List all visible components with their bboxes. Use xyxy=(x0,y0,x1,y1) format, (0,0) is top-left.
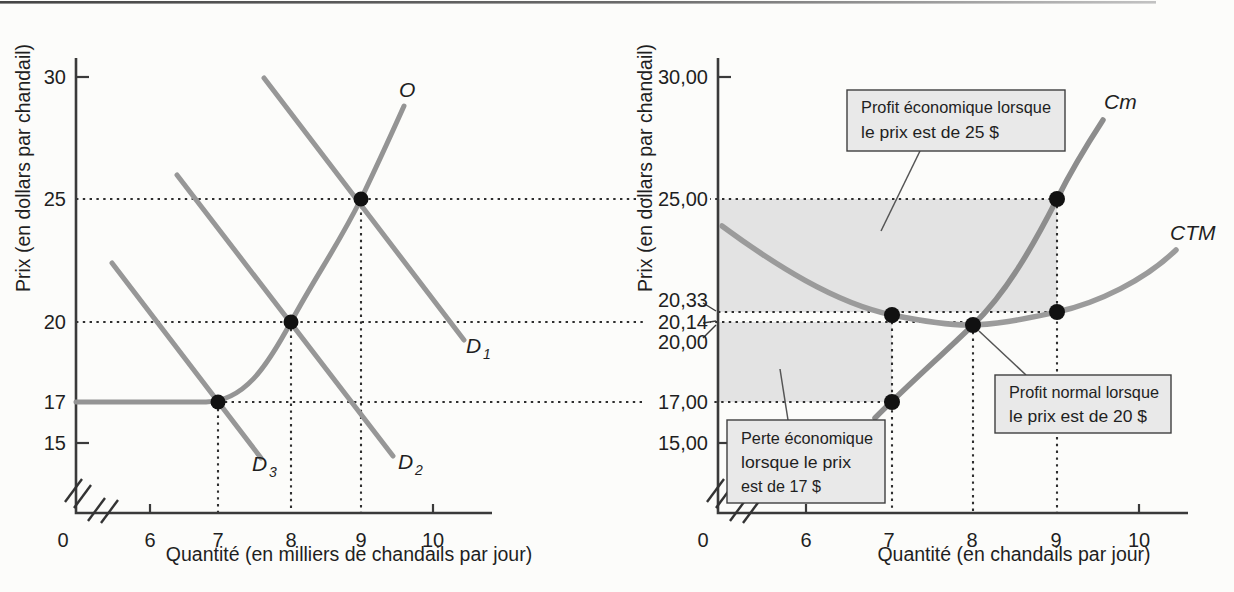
top-rule xyxy=(0,1,1156,4)
right-ytick-2014: 20,14 xyxy=(658,311,708,333)
left-ytick-17: 17 xyxy=(44,391,66,413)
loss-box-line3: est de 17 $ xyxy=(741,477,821,495)
profit-box-line2: le prix est de 25 $ xyxy=(861,123,999,141)
normal-box-connector xyxy=(979,331,1026,375)
right-ytick-1700: 17,00 xyxy=(658,391,708,413)
left-y-axis-title: Prix (en dollars par chandail) xyxy=(12,44,34,292)
d1-label: D xyxy=(466,334,481,357)
left-ytick-25: 25 xyxy=(44,188,66,210)
left-xtick-6: 6 xyxy=(144,529,155,551)
supply-curve-label: O xyxy=(399,78,415,101)
point-left-9-25 xyxy=(354,192,369,207)
left-axes xyxy=(76,58,492,513)
right-xtick-9: 9 xyxy=(1050,529,1061,551)
ctm-curve-label: CTM xyxy=(1170,221,1216,244)
point-ctm-9-2033 xyxy=(1049,304,1065,320)
right-xtick-0: 0 xyxy=(697,529,708,551)
left-ytick-15: 15 xyxy=(44,432,66,454)
d2-label-sub: 2 xyxy=(414,462,423,478)
profit-box-line1: Profit économique lorsque xyxy=(861,98,1051,116)
demand-curve-D1 xyxy=(264,78,464,340)
left-xtick-9: 9 xyxy=(355,529,366,551)
cm-curve-label: Cm xyxy=(1104,90,1137,113)
left-ytick-30: 30 xyxy=(44,66,66,88)
d3-label: D xyxy=(252,452,267,475)
d1-label-sub: 1 xyxy=(483,346,491,362)
left-xtick-10: 10 xyxy=(422,529,444,551)
d3-label-sub: 3 xyxy=(269,464,277,480)
right-xtick-6: 6 xyxy=(800,529,811,551)
left-xtick-0: 0 xyxy=(57,529,68,551)
right-ytick-1500: 15,00 xyxy=(658,432,708,454)
left-ytick-20: 20 xyxy=(44,311,66,333)
right-ytick-3000: 30,00 xyxy=(658,66,708,88)
left-xtick-8: 8 xyxy=(285,529,296,551)
textbook-figure: Profit économique lorsque le prix est de… xyxy=(0,0,1234,592)
right-ytick-2000: 20,00 xyxy=(658,331,708,353)
right-xtick-8: 8 xyxy=(966,529,977,551)
loss-box-line2: lorsque le prix xyxy=(741,453,852,471)
point-ctm-7-2014 xyxy=(884,307,900,323)
point-left-8-20 xyxy=(284,315,299,330)
figure-canvas: Profit économique lorsque le prix est de… xyxy=(0,0,1234,592)
right-ytick-2033: 20,33 xyxy=(658,289,708,311)
point-cm-7-17 xyxy=(884,394,900,410)
right-x-axis-title: Quantité (en chandails par jour) xyxy=(877,543,1150,565)
loss-shaded-region xyxy=(718,322,892,402)
right-xtick-7: 7 xyxy=(883,529,894,551)
point-min-ctm-8-20 xyxy=(965,317,981,333)
normal-box-line1: Profit normal lorsque xyxy=(1009,383,1159,401)
right-y-axis-title: Prix (en dollars par chandail) xyxy=(634,44,656,292)
d2-label: D xyxy=(398,450,413,473)
axis-break-marks xyxy=(65,479,760,523)
normal-box-line2: le prix est de 20 $ xyxy=(1009,407,1147,425)
right-xtick-10: 10 xyxy=(1128,529,1150,551)
demand-curve-D3 xyxy=(112,263,261,458)
point-cm-9-25 xyxy=(1049,191,1065,207)
left-xtick-7: 7 xyxy=(212,529,223,551)
point-left-7-17 xyxy=(211,395,226,410)
loss-box-line1: Perte économique xyxy=(741,429,873,447)
right-ytick-2500: 25,00 xyxy=(658,188,708,210)
